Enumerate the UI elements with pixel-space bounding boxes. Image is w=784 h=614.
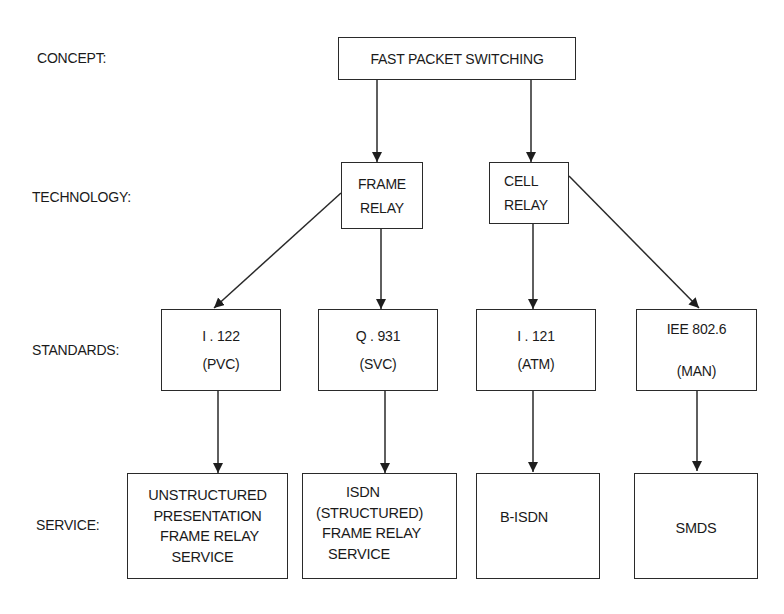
node-frame-relay: FRAME RELAY [341, 162, 423, 229]
node-text: FRAME [358, 177, 406, 191]
node-text: SMDS [675, 521, 716, 536]
node-text: Q . 931 [356, 329, 401, 343]
node-i121-atm: I . 121 (ATM) [476, 309, 596, 391]
node-isdn-structured-frame-relay-service: ISDN (STRUCTURED) FRAME RELAY SERVICE [302, 473, 457, 579]
node-text: CELL [504, 174, 538, 188]
node-text: (MAN) [677, 364, 716, 378]
node-cell-relay: CELL RELAY [489, 162, 569, 224]
node-text: FAST PACKET SWITCHING [370, 52, 543, 66]
fast-packet-switching-diagram: CONCEPT: TECHNOLOGY: STANDARDS: SERVICE:… [0, 0, 784, 614]
node-text: I . 121 [517, 329, 555, 343]
node-text: PRESENTATION [153, 509, 261, 524]
node-text: RELAY [504, 198, 548, 212]
node-ieee-802-6-man: IEE 802.6 (MAN) [636, 309, 757, 391]
node-text: (SVC) [359, 357, 396, 371]
node-text: RELAY [360, 201, 404, 215]
node-text: FRAME RELAY [316, 526, 421, 541]
row-label-standards: STANDARDS: [32, 342, 119, 358]
node-text: IEE 802.6 [667, 322, 727, 336]
node-text: (ATM) [518, 357, 555, 371]
node-text: B-ISDN [500, 510, 548, 525]
node-text: (STRUCTURED) [316, 506, 423, 521]
node-text: SERVICE [172, 550, 244, 565]
node-text: SERVICE [316, 547, 390, 562]
node-text: ISDN [316, 485, 380, 500]
node-smds: SMDS [634, 473, 758, 579]
arrow-cell-relay-to-ieee [569, 176, 699, 308]
node-b-isdn: B-ISDN [476, 473, 600, 579]
arrow-frame-relay-to-i122 [214, 193, 341, 308]
node-fast-packet-switching: FAST PACKET SWITCHING [338, 37, 576, 80]
row-label-service: SERVICE: [36, 517, 100, 533]
node-text: (PVC) [202, 357, 239, 371]
row-label-technology: TECHNOLOGY: [32, 189, 131, 205]
row-label-concept: CONCEPT: [37, 50, 106, 66]
node-q931-svc: Q . 931 (SVC) [318, 309, 438, 391]
node-text: FRAME RELAY [156, 529, 259, 544]
node-i122-pvc: I . 122 (PVC) [161, 309, 281, 391]
node-text: UNSTRUCTURED [148, 488, 266, 503]
node-unstructured-frame-relay-service: UNSTRUCTURED PRESENTATION FRAME RELAY SE… [127, 473, 288, 579]
node-text: I . 122 [202, 329, 240, 343]
